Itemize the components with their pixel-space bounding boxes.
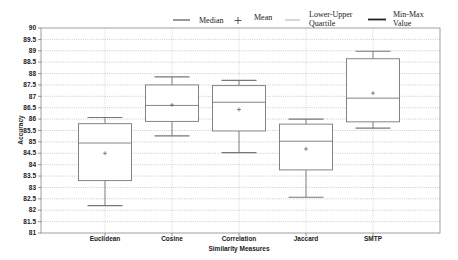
legend-quartile-label-1: Lower-Upper (309, 10, 353, 19)
y-axis-label: Accuracy (17, 115, 25, 145)
y-tick-label: 89.5 (23, 36, 36, 43)
y-tick-label: 83 (29, 184, 37, 191)
y-tick-label: 83.5 (23, 172, 36, 179)
mean-legend-plus-icon (235, 17, 242, 24)
box-jaccard (280, 119, 333, 197)
y-tick-label: 88 (29, 70, 37, 77)
y-tick-label: 89 (29, 47, 37, 54)
x-category-label: Jaccard (294, 235, 319, 242)
y-tick-label: 85.5 (23, 127, 36, 134)
y-tick-label: 87.5 (23, 81, 36, 88)
y-tick-label: 90 (29, 24, 37, 31)
y-tick-label: 86.5 (23, 104, 36, 111)
x-axis-categories: EuclideanCosineCorrelationJaccardSMTP (90, 233, 383, 242)
y-tick-label: 81.5 (23, 218, 36, 225)
y-tick-label: 85 (29, 138, 37, 145)
box-plot-chart: Median Mean Lower-Upper Quartile Min-Max… (0, 0, 458, 260)
x-category-label: Euclidean (90, 235, 121, 242)
legend-mean-label: Mean (254, 13, 272, 22)
y-tick-label: 86 (29, 115, 37, 122)
x-category-label: SMTP (364, 235, 383, 242)
y-tick-label: 82.5 (23, 195, 36, 202)
y-tick-label: 82 (29, 206, 37, 213)
legend: Median Mean Lower-Upper Quartile Min-Max… (173, 10, 424, 28)
box-euclidean (79, 118, 132, 206)
quartile-box (347, 59, 400, 122)
y-axis-ticks: 8181.58282.58383.58484.58585.58686.58787… (23, 24, 41, 236)
x-axis-label: Similarity Measures (208, 245, 269, 253)
box-smtp (347, 51, 400, 128)
x-category-label: Correlation (222, 235, 257, 242)
y-tick-label: 87 (29, 93, 37, 100)
y-tick-label: 88.5 (23, 58, 36, 65)
y-tick-label: 81 (29, 229, 37, 236)
legend-minmax-label-2: Value (393, 19, 412, 28)
y-tick-label: 84 (29, 161, 37, 168)
legend-median-label: Median (199, 16, 223, 25)
legend-minmax-label-1: Min-Max (393, 10, 424, 19)
y-tick-label: 84.5 (23, 149, 36, 156)
x-category-label: Cosine (161, 235, 183, 242)
box-cosine (146, 77, 199, 136)
legend-quartile-label-2: Quartile (309, 19, 336, 28)
